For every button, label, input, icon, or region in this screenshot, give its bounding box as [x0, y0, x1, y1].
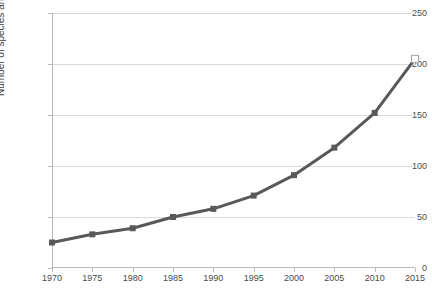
x-axis-tick-mark: [294, 268, 295, 272]
x-axis-tick-mark: [334, 268, 335, 272]
x-axis-tick-label: 1970: [32, 274, 72, 283]
x-axis-tick-label: 2015: [395, 274, 432, 283]
x-axis-tick-label: 1975: [72, 274, 112, 283]
x-axis-tick-mark: [213, 268, 214, 272]
x-axis-tick-label: 1995: [234, 274, 274, 283]
x-axis-tick-mark: [375, 268, 376, 272]
x-axis-tick-mark: [92, 268, 93, 272]
x-axis-tick-mark: [52, 268, 53, 272]
x-axis-tick-label: 1985: [153, 274, 193, 283]
x-axis-tick-label: 2005: [314, 274, 354, 283]
x-axis-tick-mark: [133, 268, 134, 272]
x-axis-tick-mark: [173, 268, 174, 272]
gridline: [53, 64, 415, 65]
gridline: [53, 115, 415, 116]
x-axis-tick-mark: [254, 268, 255, 272]
gridline: [53, 217, 415, 218]
plot-area: [52, 13, 415, 268]
x-axis-tick-label: 1980: [113, 274, 153, 283]
gridline: [53, 166, 415, 167]
gridline: [53, 13, 415, 14]
x-axis-tick-mark: [415, 268, 416, 272]
x-axis-tick-label: 2000: [274, 274, 314, 283]
x-axis-tick-label: 2010: [355, 274, 395, 283]
x-axis-tick-label: 1990: [193, 274, 233, 283]
y-axis-title: Number of species and subspecies: [0, 0, 6, 96]
